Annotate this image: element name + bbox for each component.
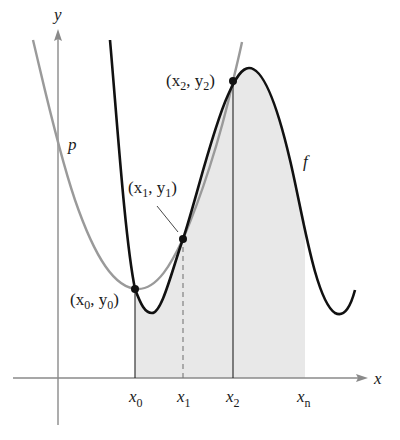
point-label-x2-y2: (x2, y2) xyxy=(166,71,215,93)
curve-f-label: f xyxy=(303,152,310,171)
label-close: ) xyxy=(209,71,215,90)
label-mid: , y xyxy=(148,178,166,197)
x-axis-label: x xyxy=(373,369,382,388)
diagram-canvas: y x p f (x0, y0) (x1, y1) (x2, y2) x0 x1… xyxy=(0,0,400,440)
tick-label-x0: x0 xyxy=(128,387,143,410)
tick-sub: 1 xyxy=(185,396,191,410)
label-open: (x xyxy=(70,290,85,309)
tick-label-x2: x2 xyxy=(225,387,240,410)
point-x0-y0 xyxy=(131,285,139,293)
tick-label-x1: x1 xyxy=(176,387,191,410)
tick-sub: n xyxy=(305,396,311,410)
point-x1-y1 xyxy=(179,235,187,243)
label-mid: , y xyxy=(90,290,108,309)
tick-sub: 0 xyxy=(137,396,143,410)
point-label-x1-y1: (x1, y1) xyxy=(128,178,177,200)
tick-label-xn: xn xyxy=(296,387,311,410)
tick-sub: 2 xyxy=(234,396,240,410)
label-mid: , y xyxy=(186,71,204,90)
label-open: (x xyxy=(166,71,181,90)
label-close: ) xyxy=(113,290,119,309)
y-axis-label: y xyxy=(52,5,62,24)
point-label-x0-y0: (x0, y0) xyxy=(70,290,119,312)
label-open: (x xyxy=(128,178,143,197)
curve-p-label: p xyxy=(67,135,77,154)
x1-label-leader xyxy=(157,206,178,232)
label-close: ) xyxy=(171,178,177,197)
point-x2-y2 xyxy=(229,77,237,85)
